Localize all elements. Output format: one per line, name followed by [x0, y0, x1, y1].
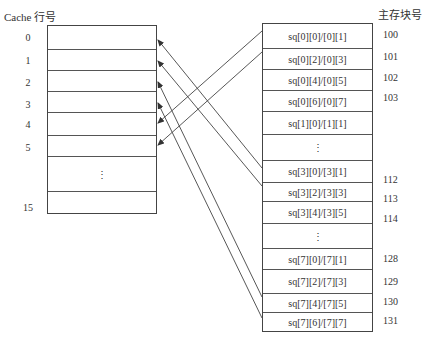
arrow-sq30-to-row0	[158, 40, 262, 168]
arrow-sq32-to-row1	[158, 61, 262, 186]
arrow-sq74-to-row2	[158, 82, 262, 297]
arrow-sq02-to-row5	[158, 52, 262, 145]
mapping-arrows	[0, 0, 425, 339]
arrow-sq76-to-row3	[158, 103, 262, 318]
arrow-sq00-to-row4	[158, 31, 262, 123]
